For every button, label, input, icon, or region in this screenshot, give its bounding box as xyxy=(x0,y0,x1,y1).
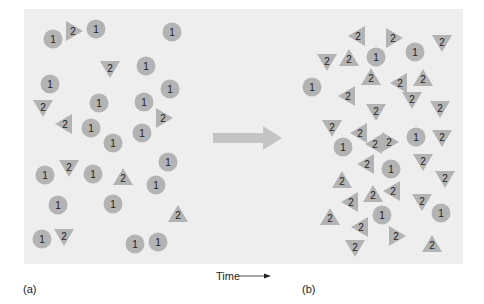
particle-2-label: 2 xyxy=(329,122,335,133)
particle-2-label: 2 xyxy=(175,210,181,221)
particle-1-label: 1 xyxy=(379,210,385,221)
particle-2-label: 2 xyxy=(348,197,354,208)
particle-2-label: 2 xyxy=(420,74,426,85)
time-axis-label: Time xyxy=(216,270,240,282)
particle-2-label: 2 xyxy=(358,222,364,233)
particle-2-label: 2 xyxy=(370,190,376,201)
particle-1-label: 1 xyxy=(50,34,56,45)
particle-layer: 11111111111111111111222222222 1111111122… xyxy=(0,0,484,304)
particle-1-label: 1 xyxy=(132,239,138,250)
particle-1-label: 1 xyxy=(96,98,102,109)
particle-2-label: 2 xyxy=(390,186,396,197)
particle-2-label: 2 xyxy=(107,63,113,74)
particle-2-label: 2 xyxy=(409,94,415,105)
particle-2-label: 2 xyxy=(373,106,379,117)
time-arrow-icon xyxy=(240,274,271,279)
particle-1-label: 1 xyxy=(153,180,159,191)
particle-2-label: 2 xyxy=(120,173,126,184)
particle-2-label: 2 xyxy=(442,173,448,184)
particle-1-label: 1 xyxy=(93,24,99,35)
particle-1-label: 1 xyxy=(309,82,315,93)
particle-1-label: 1 xyxy=(139,128,145,139)
particle-1-label: 1 xyxy=(90,169,96,180)
particle-1-label: 1 xyxy=(141,97,147,108)
panel-a-particles: 11111111111111111111222222222 xyxy=(33,20,189,254)
particle-2-label: 2 xyxy=(70,26,76,37)
particle-1-label: 1 xyxy=(155,237,161,248)
particle-1-label: 1 xyxy=(165,157,171,168)
particle-2-label: 2 xyxy=(397,78,403,89)
particle-2-label: 2 xyxy=(372,139,378,150)
particle-2-label: 2 xyxy=(429,240,435,251)
particle-1-label: 1 xyxy=(169,27,175,38)
particle-2-label: 2 xyxy=(327,213,333,224)
particle-1-label: 1 xyxy=(340,142,346,153)
particle-2-label: 2 xyxy=(62,119,68,130)
particle-2-label: 2 xyxy=(419,196,425,207)
particle-2-label: 2 xyxy=(346,54,352,65)
particle-1-label: 1 xyxy=(413,132,419,143)
particle-2-label: 2 xyxy=(386,137,392,148)
particle-1-label: 1 xyxy=(47,79,53,90)
particle-2-label: 2 xyxy=(439,37,445,48)
particle-1-label: 1 xyxy=(167,84,173,95)
particle-1-label: 1 xyxy=(110,199,116,210)
particle-1-label: 1 xyxy=(412,47,418,58)
particle-2-label: 2 xyxy=(368,73,374,84)
panel-b-particles: 11111111222222222222222222222222222222 xyxy=(303,26,456,257)
particle-2-label: 2 xyxy=(345,91,351,102)
particle-1-label: 1 xyxy=(110,138,116,149)
panel-b-label: (b) xyxy=(302,283,315,295)
particle-2-label: 2 xyxy=(40,102,46,113)
particle-2-label: 2 xyxy=(339,176,345,187)
particle-2-label: 2 xyxy=(437,103,443,114)
particle-2-label: 2 xyxy=(357,128,363,139)
particle-1-label: 1 xyxy=(373,52,379,63)
transition-arrow-icon xyxy=(213,126,282,150)
particle-1-label: 1 xyxy=(39,234,45,245)
particle-1-label: 1 xyxy=(88,123,94,134)
diagram-figure: 11111111111111111111222222222 1111111122… xyxy=(0,0,484,304)
particle-1-label: 1 xyxy=(42,170,48,181)
particle-2-label: 2 xyxy=(390,33,396,44)
particle-2-label: 2 xyxy=(66,162,72,173)
particle-2-label: 2 xyxy=(61,231,67,242)
particle-1-label: 1 xyxy=(388,164,394,175)
particle-1-label: 1 xyxy=(143,61,149,72)
particle-2-label: 2 xyxy=(439,132,445,143)
panel-a-label: (a) xyxy=(23,283,36,295)
particle-2-label: 2 xyxy=(364,159,370,170)
particle-1-label: 1 xyxy=(438,208,444,219)
particle-2-label: 2 xyxy=(324,56,330,67)
particle-2-label: 2 xyxy=(352,242,358,253)
particle-2-label: 2 xyxy=(420,156,426,167)
particle-2-label: 2 xyxy=(393,231,399,242)
particle-2-label: 2 xyxy=(355,31,361,42)
particle-1-label: 1 xyxy=(55,200,61,211)
particle-2-label: 2 xyxy=(160,113,166,124)
